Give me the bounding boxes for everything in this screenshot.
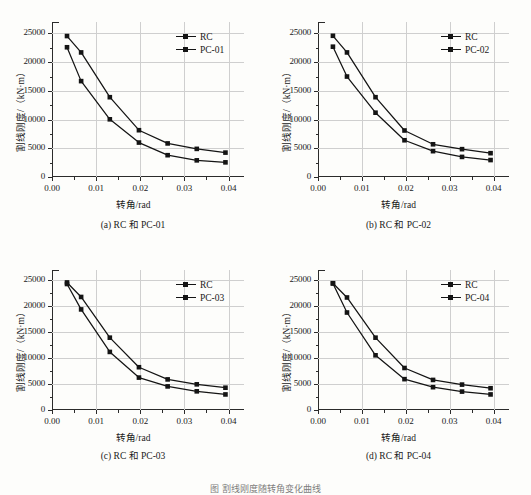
figure-caption: 图 割线刚度随转角变化曲线 [0,479,531,495]
x-axis-tick-label: 0.00 [298,183,338,193]
data-point-marker [431,385,436,390]
x-axis-minor-tick [118,410,119,413]
x-axis-minor-tick [428,410,429,413]
x-axis-tick-label: 0.01 [76,183,116,193]
data-point-marker [331,33,336,38]
y-axis-tick-label: 25000 [268,27,311,37]
x-axis-tick [229,177,230,181]
x-axis-minor-tick [340,177,341,180]
x-axis-tick-label: 0.00 [32,183,72,193]
x-axis-minor-tick [340,410,341,413]
data-point-marker [488,158,493,163]
x-axis-tick [406,410,407,414]
data-point-marker [65,45,70,50]
data-point-marker [137,375,142,380]
panel-caption-c: (c) RC 和 PC-03 [0,448,266,462]
legend-item-rc: RC [176,30,224,43]
panel-c: 0.000.010.020.030.0405000100001500020000… [0,248,266,472]
data-point-marker [331,44,336,49]
x-axis-minor-tick [74,177,75,180]
data-point-marker [402,366,407,371]
y-axis-tick-label: 20000 [268,56,311,66]
data-point-marker [137,128,142,133]
y-axis-tick-label: 25000 [268,274,311,284]
x-axis-tick [494,177,495,181]
data-point-marker [345,74,350,79]
panel-caption-b: (b) RC 和 PC-02 [266,217,531,231]
data-point-marker [373,110,378,115]
data-point-marker [65,282,70,287]
x-axis-tick-label: 0.01 [342,416,382,426]
x-axis-tick [362,410,363,414]
x-axis-tick [406,177,407,181]
legend-label: PC-02 [465,45,489,55]
x-axis-minor-tick [206,410,207,413]
data-point-marker [194,158,199,163]
data-point-marker [331,281,336,286]
legend-marker-icon [441,280,461,290]
x-axis-tick-label: 0.01 [76,416,116,426]
x-axis-tick [52,177,53,181]
legend-item-pc-03: PC-03 [176,291,224,304]
data-point-marker [223,150,228,155]
x-axis-tick-label: 0.03 [430,183,470,193]
legend-item-rc: RC [441,30,489,43]
x-axis-tick-label: 0.04 [209,183,249,193]
legend-item-pc-04: PC-04 [441,291,489,304]
x-axis-title: 转角/rad [0,430,266,444]
y-axis-tick-label: 0 [2,171,45,181]
y-axis-tick [314,177,318,178]
data-point-marker [460,382,465,387]
x-axis-tick [184,410,185,414]
legend-label: PC-01 [200,45,224,55]
data-point-marker [79,79,84,84]
data-point-marker [460,389,465,394]
data-point-marker [137,140,142,145]
legend-marker-icon [176,32,196,42]
data-point-marker [373,95,378,100]
x-axis-tick [96,410,97,414]
legend-item-pc-01: PC-01 [176,43,224,56]
x-axis-minor-tick [428,177,429,180]
y-axis-tick-label: 0 [268,404,311,414]
x-axis-tick-label: 0.03 [164,183,204,193]
y-axis-tick [314,410,318,411]
legend-marker-icon [176,45,196,55]
data-point-marker [402,377,407,382]
data-point-marker [165,153,170,158]
x-axis-tick [494,410,495,414]
x-axis-minor-tick [118,177,119,180]
x-axis-minor-tick [162,410,163,413]
y-axis-tick [48,410,52,411]
data-point-marker [108,350,113,355]
data-point-marker [79,307,84,312]
panel-caption-d: (d) RC 和 PC-04 [266,448,531,462]
data-point-marker [165,384,170,389]
x-axis-tick-label: 0.04 [474,183,514,193]
x-axis-minor-tick [384,410,385,413]
legend-d: RCPC-04 [441,278,489,304]
x-axis-title: 转角/rad [0,197,266,211]
data-point-marker [194,382,199,387]
data-point-marker [460,147,465,152]
data-point-marker [223,160,228,165]
data-point-marker [373,353,378,358]
data-point-marker [345,295,350,300]
legend-label: PC-04 [465,293,489,303]
x-axis-tick [184,177,185,181]
data-point-marker [431,142,436,147]
x-axis-tick-label: 0.02 [386,183,426,193]
x-axis-tick [318,410,319,414]
data-point-marker [79,295,84,300]
legend-c: RCPC-03 [176,278,224,304]
x-axis-tick [450,177,451,181]
legend-marker-icon [441,293,461,303]
panel-caption-a: (a) RC 和 PC-01 [0,217,266,231]
legend-marker-icon [441,45,461,55]
y-axis-tick-label: 25000 [2,274,45,284]
data-point-marker [137,365,142,370]
x-axis-tick [140,410,141,414]
x-axis-minor-tick [162,177,163,180]
panel-a: 0.000.010.020.030.0405000100001500020000… [0,0,266,248]
x-axis-tick [96,177,97,181]
